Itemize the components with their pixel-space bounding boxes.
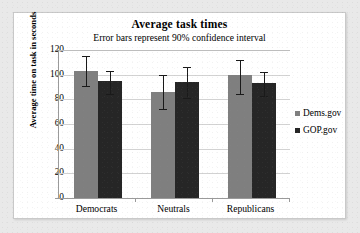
bar-democrats-gop-gov [98, 81, 122, 198]
y-tick-mark [55, 149, 59, 150]
error-bar-cap [82, 56, 90, 57]
bar-neutrals-gop-gov [175, 82, 199, 198]
legend-label: Dems.gov [303, 108, 341, 118]
y-tick-mark [55, 50, 59, 51]
x-axis-tick [289, 198, 290, 202]
x-axis-tick [212, 198, 213, 202]
error-bar-cap [183, 98, 191, 99]
error-bar [187, 67, 188, 98]
bar-democrats-dems-gov [74, 71, 98, 198]
y-tick-mark [55, 173, 59, 174]
y-tick-mark [55, 124, 59, 125]
legend-item[interactable]: GOP.gov [295, 125, 347, 135]
x-axis-tick [135, 198, 136, 202]
error-bar [163, 75, 164, 110]
chart-panel: Average task times Error bars represent … [13, 12, 346, 219]
legend-swatch-icon [295, 111, 300, 116]
error-bar-cap [260, 96, 268, 97]
chart-subtitle: Error bars represent 90% confidence inte… [14, 32, 345, 43]
chart-title: Average task times [14, 18, 345, 30]
error-bar [110, 71, 111, 94]
x-category-label: Republicans [212, 203, 289, 214]
error-bar [240, 60, 241, 94]
error-bar-cap [82, 86, 90, 87]
legend-item[interactable]: Dems.gov [295, 108, 347, 118]
error-bar-cap [236, 60, 244, 61]
error-bar-cap [106, 71, 114, 72]
error-bar-cap [183, 67, 191, 68]
bar-republicans-gop-gov [252, 83, 276, 198]
legend-swatch-icon [295, 128, 300, 133]
plot-area [58, 50, 290, 199]
y-tick-mark [55, 198, 59, 199]
error-bar-cap [260, 72, 268, 73]
error-bar-cap [159, 75, 167, 76]
gridline [59, 50, 290, 51]
x-category-label: Democrats [58, 203, 135, 214]
legend-label: GOP.gov [303, 125, 337, 135]
chart-legend: Dems.govGOP.gov [295, 108, 347, 142]
x-category-label: Neutrals [135, 203, 212, 214]
y-tick-mark [55, 75, 59, 76]
error-bar [264, 72, 265, 95]
y-tick-mark [55, 99, 59, 100]
error-bar-cap [106, 94, 114, 95]
error-bar [86, 56, 87, 87]
error-bar-cap [236, 94, 244, 95]
error-bar-cap [159, 109, 167, 110]
